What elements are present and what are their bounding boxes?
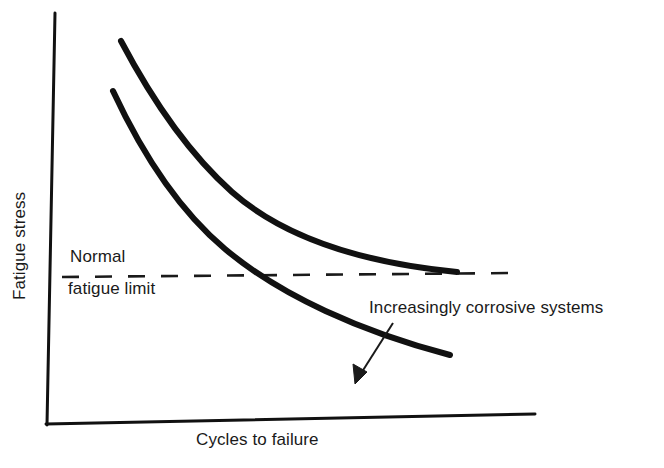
increasingly-corrosive-systems-label: Increasingly corrosive systems [369,298,603,318]
sn-curve-upper [121,41,457,272]
y-axis-line [47,13,55,425]
normal-fatigue-limit-label-top: Normal [70,247,125,267]
y-axis-label: Fatigue stress [10,192,30,300]
x-axis-line [46,414,535,424]
normal-fatigue-limit-label-bottom: fatigue limit [68,279,155,299]
chart-canvas [0,0,664,468]
fatigue-chart-figure: Fatigue stress Cycles to failure Normal … [0,0,664,468]
x-axis-label: Cycles to failure [196,430,319,450]
